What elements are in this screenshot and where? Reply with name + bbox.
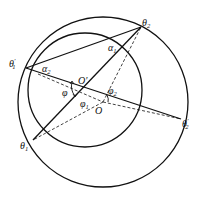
label-alpha2: α2: [42, 63, 51, 75]
phi2-arc: [107, 95, 108, 102]
label-theta1-prime: θ′1: [9, 57, 16, 70]
dashed-O-theta1: [33, 102, 103, 140]
label-phi1: φ1: [80, 98, 89, 110]
label-alpha1: α1: [108, 42, 117, 54]
label-O: O: [95, 105, 102, 116]
dashed-alpha2-O: [38, 74, 103, 102]
label-phi2: φ2: [108, 85, 118, 97]
label-theta2: θ2: [142, 17, 151, 29]
label-theta2-prime: θ′2: [182, 117, 189, 130]
line-theta1p-theta2p: [26, 68, 181, 119]
label-O-prime: O′: [78, 75, 88, 86]
label-phi: φ: [62, 87, 68, 98]
label-theta1: θ1: [20, 140, 28, 152]
dashed-O-theta2p: [103, 102, 181, 119]
inner-circle: [28, 33, 142, 147]
geometry-diagram: θ2 θ′1 θ1 θ′2 α1 α2 O′ O φ φ1 φ2: [0, 0, 204, 205]
